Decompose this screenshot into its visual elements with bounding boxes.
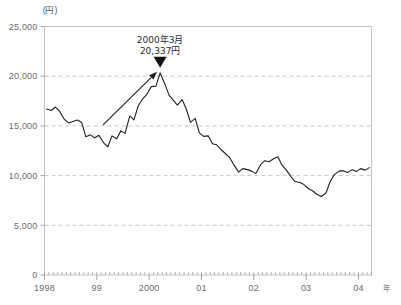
y-axis-ticks: 25,00020,00015,00010,0005,0000 bbox=[9, 22, 45, 281]
x-tick-label: 04 bbox=[353, 283, 363, 293]
x-axis-ticks: 199899200001020304 bbox=[34, 275, 364, 293]
plot-frame bbox=[45, 27, 372, 276]
x-tick-label: 01 bbox=[196, 283, 206, 293]
arrow-shaft bbox=[103, 77, 151, 125]
y-axis-unit-label: (円) bbox=[43, 5, 58, 15]
peak-callout-value: 20,337円 bbox=[140, 46, 181, 56]
price-line-series bbox=[47, 73, 370, 197]
y-tick-label: 25,000 bbox=[9, 22, 38, 32]
x-tick-label: 99 bbox=[92, 283, 102, 293]
y-tick-label: 0 bbox=[32, 270, 37, 280]
x-tick-label: 02 bbox=[249, 283, 259, 293]
y-tick-label: 5,000 bbox=[14, 221, 38, 231]
x-tick-label: 03 bbox=[301, 283, 311, 293]
y-tick-label: 20,000 bbox=[9, 71, 38, 81]
x-axis-unit-label: 年 bbox=[383, 283, 391, 293]
chart-canvas: (円) 25,00020,00015,00010,0005,0000 19989… bbox=[0, 0, 401, 305]
peak-callout-date: 2000年3月 bbox=[137, 34, 184, 45]
stock-price-chart: (円) 25,00020,00015,00010,0005,0000 19989… bbox=[0, 0, 401, 305]
y-tick-label: 15,000 bbox=[9, 121, 38, 131]
x-axis-minor-ticks bbox=[45, 272, 372, 275]
gridlines bbox=[45, 76, 372, 225]
x-tick-label: 2000 bbox=[139, 283, 160, 293]
peak-marker-triangle-icon bbox=[154, 57, 167, 68]
x-tick-label: 1998 bbox=[34, 283, 55, 293]
y-tick-label: 10,000 bbox=[9, 171, 38, 181]
